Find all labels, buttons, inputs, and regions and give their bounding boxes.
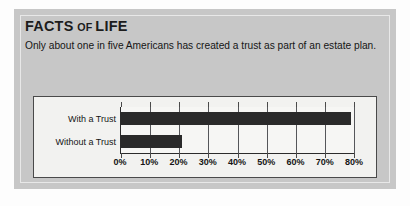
facts-of-life-card: FACTSOFLIFE Only about one in five Ameri… bbox=[14, 9, 396, 189]
x-axis-tick-mark bbox=[208, 102, 209, 107]
x-axis-tick-label: 60% bbox=[286, 157, 304, 167]
title-word-facts: FACTS bbox=[25, 17, 74, 34]
x-axis-tick-label: 30% bbox=[199, 157, 217, 167]
x-axis-tick-label: 0% bbox=[113, 157, 126, 167]
title-word-life: LIFE bbox=[95, 17, 127, 34]
screenshot-root: FACTSOFLIFE Only about one in five Ameri… bbox=[0, 0, 410, 206]
x-axis-tick-label: 80% bbox=[345, 157, 363, 167]
bar bbox=[121, 112, 351, 124]
x-axis-tick-mark bbox=[267, 102, 268, 107]
x-axis-tick-label: 20% bbox=[169, 157, 187, 167]
x-axis-tick-mark bbox=[179, 102, 180, 107]
card-description: Only about one in five Americans has cre… bbox=[25, 40, 377, 52]
card-body: FACTSOFLIFE Only about one in five Ameri… bbox=[24, 17, 386, 180]
plot-area bbox=[120, 107, 354, 154]
gridline bbox=[354, 107, 355, 153]
x-axis-tick-mark bbox=[354, 102, 355, 107]
chart-container: With a TrustWithout a Trust 0%10%20%30%4… bbox=[33, 96, 377, 178]
category-label: With a Trust bbox=[68, 114, 116, 124]
category-labels: With a TrustWithout a Trust bbox=[34, 107, 116, 154]
x-axis-tick-label: 70% bbox=[316, 157, 334, 167]
x-axis-tick-labels: 0%10%20%30%40%50%60%70%80% bbox=[120, 157, 354, 168]
bar bbox=[121, 135, 182, 147]
x-axis-tick-mark bbox=[325, 102, 326, 107]
x-axis-tick-mark bbox=[296, 102, 297, 107]
title-word-of: OF bbox=[77, 21, 92, 33]
x-axis-tick-label: 10% bbox=[140, 157, 158, 167]
page-title: FACTSOFLIFE bbox=[24, 17, 361, 36]
x-axis-tick-mark bbox=[150, 102, 151, 107]
x-axis-tick-label: 50% bbox=[257, 157, 275, 167]
x-axis-tick-label: 40% bbox=[228, 157, 246, 167]
x-axis-tick-mark bbox=[121, 102, 122, 107]
category-label: Without a Trust bbox=[55, 137, 116, 147]
x-axis-tick-mark bbox=[238, 102, 239, 107]
chart-inner: With a TrustWithout a Trust 0%10%20%30%4… bbox=[34, 97, 376, 177]
